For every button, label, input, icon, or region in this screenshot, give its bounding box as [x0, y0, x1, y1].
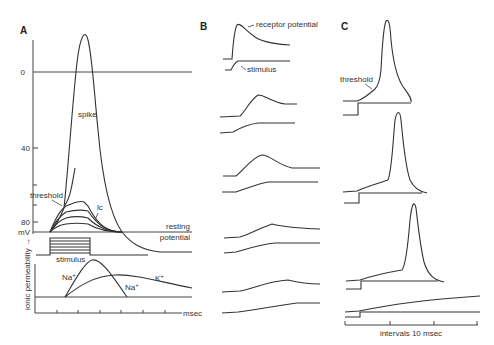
spike-label: spike — [78, 110, 97, 119]
receptor-potential-label: receptor potential — [256, 20, 318, 29]
lc-label: lc — [97, 203, 103, 212]
na-label: Na+ — [62, 272, 76, 282]
receptor-potential-trace — [222, 280, 320, 292]
action-potential-trace — [343, 20, 411, 102]
stimulus-trace — [222, 182, 318, 192]
ionic-permeability-label: ionic permeability → — [23, 238, 32, 310]
panel-c: C threshold intervals 10 msec — [340, 20, 480, 338]
spike-trace — [50, 35, 192, 252]
stimulus-step — [346, 281, 438, 289]
stimulus-label: stimulus — [56, 255, 85, 264]
potential-label: potential — [160, 233, 190, 242]
stimulus-steps — [36, 238, 148, 255]
panel-b: B receptor potential stimulus — [200, 20, 320, 313]
msec-label: msec — [183, 309, 202, 318]
arrow — [241, 66, 246, 70]
na-label-fall: Na+ — [125, 282, 139, 292]
intervals-label: intervals 10 msec — [380, 329, 442, 338]
tick-label-0: 0 — [21, 68, 26, 77]
tick-label-40: 40 — [21, 144, 30, 153]
receptor-potential-trace — [223, 24, 290, 59]
stimulus-step — [345, 312, 480, 317]
threshold-arrow-c — [365, 84, 372, 89]
stimulus-step — [344, 193, 422, 203]
threshold-arrow — [52, 200, 62, 206]
resting-label: resting — [166, 222, 190, 231]
subthreshold-trace-c — [345, 296, 480, 312]
tick-label-80: 80 — [21, 218, 30, 227]
arrow — [248, 25, 254, 27]
stimulus-label-b: stimulus — [247, 65, 276, 74]
action-potential-trace — [343, 113, 427, 194]
panel-c-label: C — [341, 21, 348, 32]
panel-a-label: A — [20, 25, 27, 36]
stimulus-trace — [224, 243, 320, 253]
panel-a: A 0 40 80 mV spike threshold lc resting … — [18, 25, 202, 318]
stimulus-trace — [220, 123, 295, 133]
unit-mv: mV — [18, 228, 31, 237]
receptor-potential-trace — [220, 95, 297, 117]
panel-b-label: B — [200, 21, 207, 32]
threshold-label: threshold — [30, 191, 63, 200]
stimulus-step — [343, 103, 411, 115]
receptor-potential-trace — [223, 155, 320, 176]
threshold-label-c: threshold — [340, 75, 373, 84]
figure-canvas: A 0 40 80 mV spike threshold lc resting … — [0, 0, 494, 345]
action-potential-trace — [346, 204, 444, 282]
receptor-potential-trace — [224, 224, 320, 238]
stimulus-trace — [222, 303, 320, 313]
